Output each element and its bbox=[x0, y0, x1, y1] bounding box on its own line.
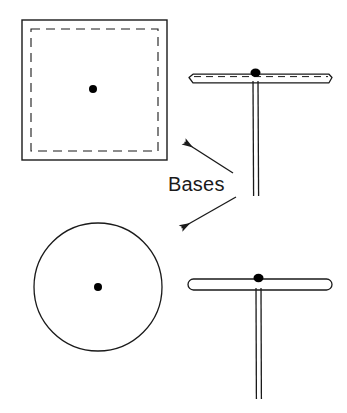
arrow-to-square-base bbox=[185, 142, 234, 173]
round-base-post-knob bbox=[254, 274, 264, 282]
bases-label: Bases bbox=[168, 173, 225, 195]
square-base-plan-group bbox=[22, 20, 167, 160]
bases-line-drawing: Bases bbox=[0, 0, 347, 413]
figure-canvas: Bases bbox=[0, 0, 347, 413]
round-base-center-dot bbox=[94, 283, 102, 291]
round-base-elevation-group bbox=[188, 274, 332, 399]
square-base-post-knob bbox=[251, 69, 261, 77]
round-base-plan-group bbox=[34, 223, 162, 351]
square-base-center-dot bbox=[89, 85, 97, 93]
square-base-post-left-edge bbox=[253, 81, 254, 196]
square-base-post-right-edge bbox=[258, 81, 259, 196]
arrow-to-round-base bbox=[182, 197, 237, 228]
square-base-plate-outline bbox=[189, 74, 332, 83]
